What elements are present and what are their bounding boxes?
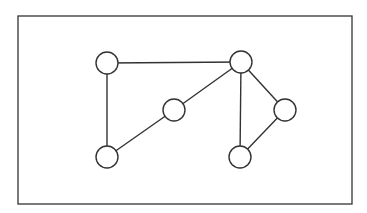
node-n6 bbox=[229, 146, 251, 168]
node-n5 bbox=[96, 146, 118, 168]
edge-n5-n3 bbox=[107, 110, 174, 157]
graph-nodes bbox=[96, 51, 296, 168]
edge-n3-n2 bbox=[174, 62, 241, 110]
node-n2 bbox=[230, 51, 252, 73]
edge-n1-n2 bbox=[107, 62, 241, 63]
edge-n2-n6 bbox=[240, 62, 241, 157]
graph-edges bbox=[107, 62, 285, 157]
node-n1 bbox=[96, 52, 118, 74]
graph-diagram bbox=[0, 0, 367, 213]
node-n4 bbox=[274, 99, 296, 121]
node-n3 bbox=[163, 99, 185, 121]
